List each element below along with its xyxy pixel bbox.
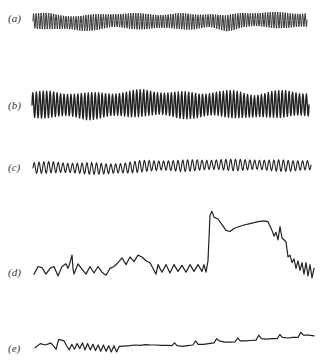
trace-c (33, 159, 311, 174)
trace-e (35, 332, 314, 352)
panel-label-c: (c) (8, 161, 21, 174)
figure-canvas: (a) (b) (c) (d) (e) (0, 0, 327, 364)
panel-label-a: (a) (8, 12, 21, 25)
panel-label-b: (b) (8, 99, 21, 112)
panel-label-d: (d) (8, 266, 21, 279)
panel-label-e: (e) (8, 342, 21, 355)
trace-b (32, 90, 309, 120)
trace-d (34, 211, 314, 278)
trace-a (33, 12, 307, 31)
